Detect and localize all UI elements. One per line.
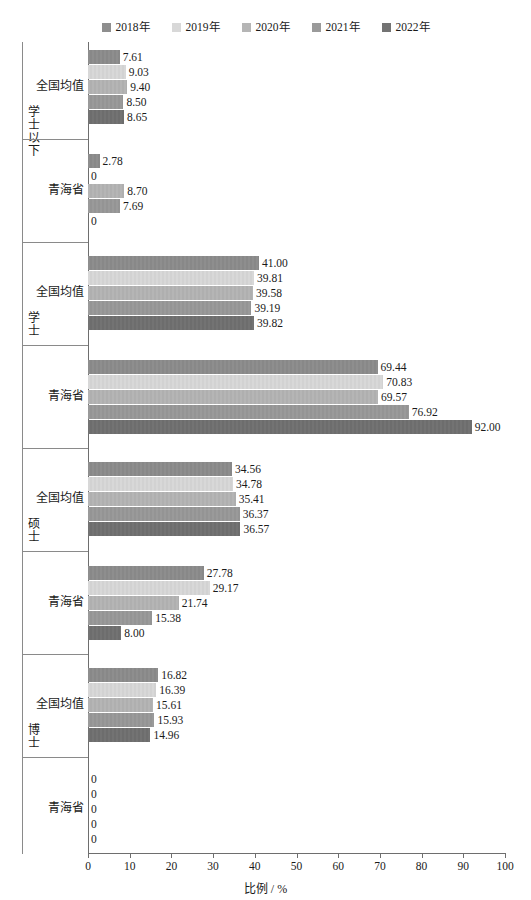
bar-value-label: 0: [91, 832, 97, 846]
bar: [88, 566, 204, 580]
x-tick-label: 60: [332, 860, 344, 872]
category-label-qinghai: 青海省: [0, 184, 84, 196]
bar: [88, 286, 253, 300]
bar: [88, 626, 121, 640]
bar: [88, 80, 127, 94]
x-tick-label: 70: [374, 860, 386, 872]
bar: [88, 256, 259, 270]
bar-value-label: 21.74: [182, 596, 208, 610]
group-label: 学士: [24, 311, 41, 337]
bar-value-label: 2.78: [103, 154, 123, 168]
bar: [88, 507, 240, 521]
bar: [88, 683, 156, 697]
bar: [88, 301, 251, 315]
bar-value-label: 36.37: [243, 507, 269, 521]
bar: [88, 50, 120, 64]
bar: [88, 154, 100, 168]
x-tick: [505, 853, 506, 858]
bar-value-label: 15.61: [156, 698, 182, 712]
bar-value-label: 0: [91, 772, 97, 786]
row-separator: [22, 139, 88, 140]
legend-swatch-icon: [102, 23, 111, 32]
bar-value-label: 27.78: [207, 566, 233, 580]
bar-value-label: 0: [91, 802, 97, 816]
bar-value-label: 39.82: [257, 316, 283, 330]
bar-value-label: 14.96: [153, 728, 179, 742]
legend-item-2019年: 2019年: [172, 22, 220, 33]
x-tick-label: 30: [207, 860, 219, 872]
bar-value-label: 8.70: [127, 184, 147, 198]
x-tick: [463, 853, 464, 858]
category-label-national: 全国均值: [0, 492, 84, 504]
group-separator: [22, 242, 88, 243]
bar: [88, 477, 233, 491]
bar-value-label: 29.17: [213, 581, 239, 595]
bar-value-label: 0: [91, 817, 97, 831]
x-tick-label: 50: [291, 860, 303, 872]
x-tick: [130, 853, 131, 858]
bar-value-label: 15.93: [157, 713, 183, 727]
group-label: 博士: [24, 723, 41, 749]
bar: [88, 728, 150, 742]
legend-item-2020年: 2020年: [242, 22, 290, 33]
bar-value-label: 8.50: [126, 95, 146, 109]
bar-value-label: 7.61: [123, 50, 143, 64]
bar: [88, 110, 124, 124]
category-label-national: 全国均值: [0, 286, 84, 298]
category-label-national: 全国均值: [0, 698, 84, 710]
x-tick-label: 80: [416, 860, 428, 872]
bar: [88, 581, 210, 595]
row-separator: [22, 551, 88, 552]
bar: [88, 713, 154, 727]
bar-value-label: 9.40: [130, 80, 150, 94]
legend-label: 2020年: [256, 22, 290, 33]
bar-value-label: 8.65: [127, 110, 147, 124]
bar-value-label: 39.81: [257, 271, 283, 285]
bar-value-label: 34.56: [235, 462, 261, 476]
category-label-national: 全国均值: [0, 80, 84, 92]
legend-label: 2019年: [186, 22, 220, 33]
bar-value-label: 35.41: [239, 492, 265, 506]
bar: [88, 360, 378, 374]
bar-value-label: 15.38: [155, 611, 181, 625]
bar-value-label: 41.00: [262, 256, 288, 270]
bar-value-label: 0: [91, 169, 97, 183]
bar-value-label: 9.03: [129, 65, 149, 79]
bar-value-label: 0: [91, 214, 97, 228]
bar: [88, 199, 120, 213]
group-separator: [22, 448, 88, 449]
legend-label: 2018年: [116, 22, 150, 33]
legend-swatch-icon: [382, 23, 391, 32]
bar: [88, 522, 240, 536]
bar-value-label: 0: [91, 787, 97, 801]
bar-value-label: 69.44: [381, 360, 407, 374]
legend-item-2021年: 2021年: [312, 22, 360, 33]
bar-value-label: 39.58: [256, 286, 282, 300]
legend-label: 2022年: [396, 22, 430, 33]
bar: [88, 698, 153, 712]
x-tick: [88, 853, 89, 858]
bar-value-label: 16.39: [159, 683, 185, 697]
row-separator: [22, 757, 88, 758]
bar: [88, 95, 123, 109]
bar-value-label: 39.19: [254, 301, 280, 315]
legend-item-2018年: 2018年: [102, 22, 150, 33]
legend-swatch-icon: [242, 23, 251, 32]
bar: [88, 405, 409, 419]
group-label: 硕士: [24, 517, 41, 543]
x-tick-label: 20: [166, 860, 178, 872]
bar: [88, 462, 232, 476]
x-tick-label: 90: [458, 860, 470, 872]
bar: [88, 65, 126, 79]
x-tick-label: 40: [249, 860, 261, 872]
bar-value-label: 70.83: [386, 375, 412, 389]
row-separator: [22, 345, 88, 346]
legend-swatch-icon: [312, 23, 321, 32]
bar-chart: 2018年2019年2020年2021年2022年 7.619.039.408.…: [0, 0, 531, 900]
bar: [88, 596, 179, 610]
bar: [88, 184, 124, 198]
legend-item-2022年: 2022年: [382, 22, 430, 33]
bar-value-label: 8.00: [124, 626, 144, 640]
category-label-qinghai: 青海省: [0, 596, 84, 608]
x-tick: [213, 853, 214, 858]
